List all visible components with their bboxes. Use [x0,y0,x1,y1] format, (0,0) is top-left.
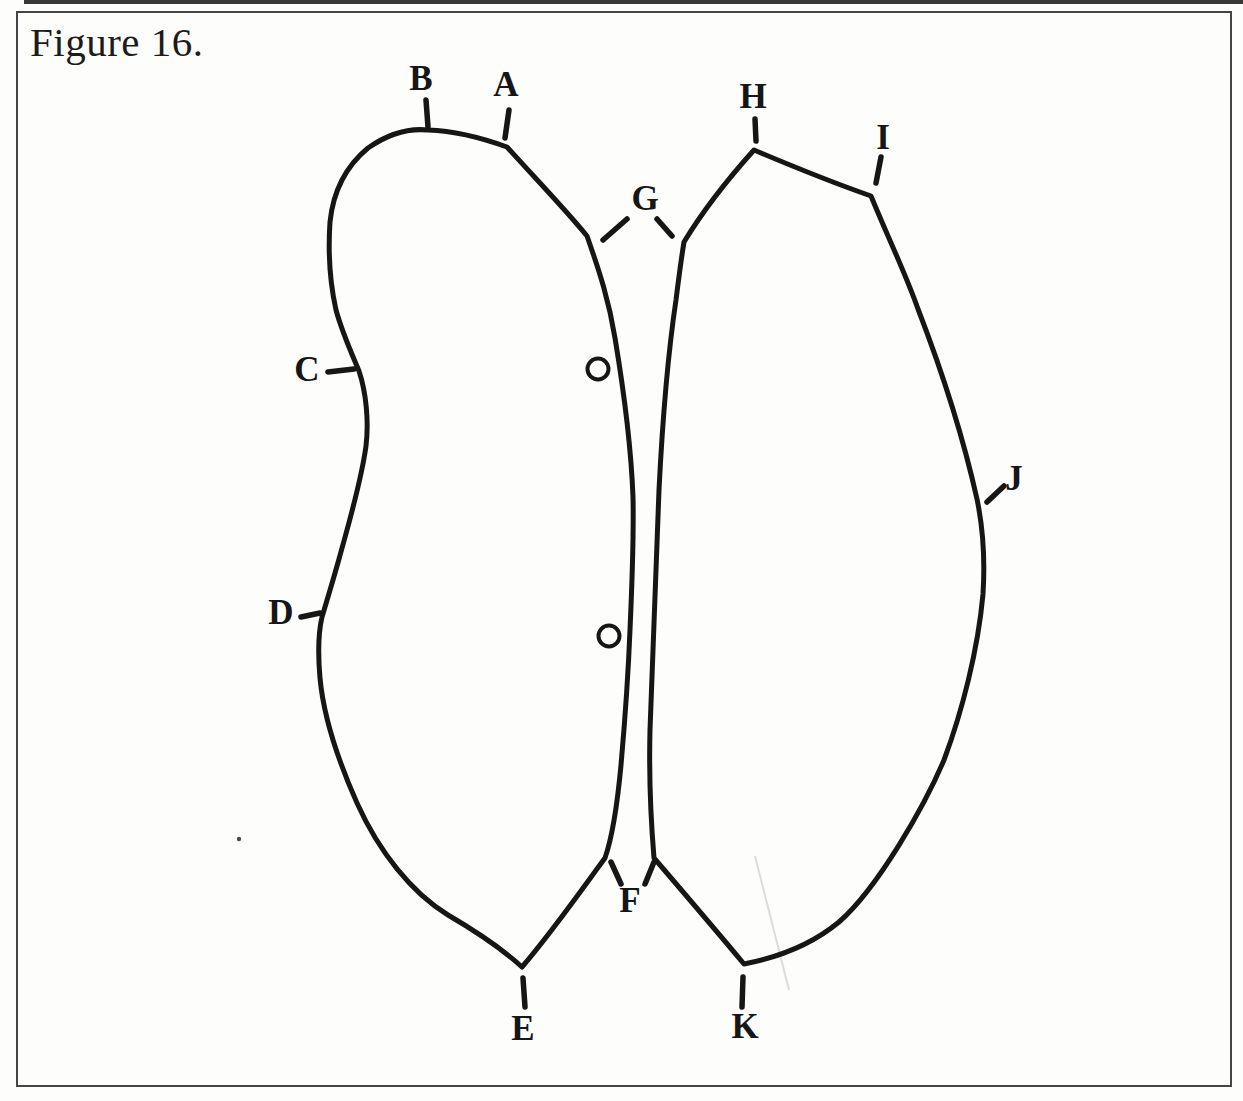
leader-tick-b [426,100,428,127]
part-label-d: D [268,593,293,632]
scan-scratch-artifact [755,856,789,990]
leader-tick-a [505,110,509,138]
leader-tick-c [328,369,354,372]
leader-tick-j [987,486,1004,502]
right-lobe-outline [650,150,984,964]
labeled-diagram: A B C D E F G H I J K [0,0,1243,1101]
left-lobe-outline [319,130,634,967]
ink-speck [237,837,241,841]
small-circle-upper [588,359,609,380]
leader-tick-e [523,978,525,1007]
leader-tick-h [755,119,756,141]
leader-tick-g-left [603,219,627,240]
scanned-page: Figure 16. A B C D E F G H [0,0,1243,1101]
part-label-f: F [619,881,640,920]
leader-tick-i [876,157,881,183]
part-label-i: I [876,118,890,157]
part-label-k: K [731,1007,758,1046]
leader-tick-g-right [657,219,672,236]
small-circle-lower [599,626,620,647]
part-label-j: J [1005,459,1023,498]
part-label-g: G [631,179,658,218]
part-label-c: C [294,350,319,389]
part-label-b: B [409,59,432,98]
leader-tick-f-right [645,862,654,884]
part-label-h: H [739,77,766,116]
part-label-e: E [511,1009,534,1048]
part-label-a: A [493,65,519,104]
leader-tick-d [301,613,320,617]
leader-tick-k [742,977,743,1007]
